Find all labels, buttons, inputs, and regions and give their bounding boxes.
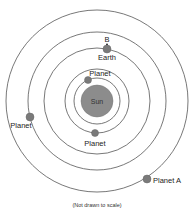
solar-system-diagram: Sun Planet Planet B Earth Planet Planet … bbox=[0, 0, 195, 214]
earth bbox=[103, 45, 111, 53]
second-planet bbox=[92, 130, 99, 137]
left-planet-label: Planet bbox=[10, 121, 32, 130]
caption: (Not drawn to scale) bbox=[72, 202, 121, 208]
second-planet-label: Planet bbox=[84, 139, 106, 148]
earth-label: Earth bbox=[98, 53, 116, 62]
planet-a-label: Planet A bbox=[153, 176, 181, 185]
planet-a bbox=[143, 175, 151, 183]
sun-label: Sun bbox=[91, 98, 104, 105]
marker-b-label: B bbox=[104, 35, 109, 44]
inner-planet-label: Planet bbox=[89, 69, 111, 78]
left-planet bbox=[26, 113, 34, 121]
